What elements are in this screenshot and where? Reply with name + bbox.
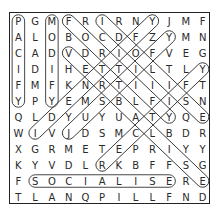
grid-cell[interactable]: P [10,13,27,29]
grid-cell[interactable]: R [44,141,61,157]
grid-cell[interactable]: O [44,173,61,189]
grid-cell[interactable]: O [127,45,144,61]
grid-cell[interactable]: D [194,189,211,205]
grid-cell[interactable]: N [77,77,94,93]
grid-cell[interactable]: A [127,109,144,125]
grid-cell[interactable]: I [111,189,128,205]
grid-cell[interactable]: M [178,13,195,29]
grid-cell[interactable]: R [194,125,211,141]
grid-cell[interactable]: Y [161,29,178,45]
grid-cell[interactable]: T [161,61,178,77]
grid-cell[interactable]: Q [10,109,27,125]
grid-cell[interactable]: I [44,61,61,77]
grid-cell[interactable]: S [144,173,161,189]
grid-cell[interactable]: E [178,45,195,61]
grid-cell[interactable]: V [44,125,61,141]
grid-cell[interactable]: S [178,157,195,173]
grid-cell[interactable]: L [27,109,44,125]
grid-cell[interactable]: K [60,77,77,93]
grid-cell[interactable]: F [194,13,211,29]
grid-cell[interactable]: I [94,13,111,29]
grid-cell[interactable]: I [27,125,44,141]
grid-cell[interactable]: M [27,77,44,93]
grid-cell[interactable]: R [178,173,195,189]
grid-cell[interactable]: L [27,189,44,205]
grid-cell[interactable]: F [44,77,61,93]
grid-cell[interactable]: J [161,13,178,29]
grid-cell[interactable]: T [144,109,161,125]
grid-cell[interactable]: L [27,29,44,45]
grid-cell[interactable]: Y [27,157,44,173]
grid-cell[interactable]: I [161,141,178,157]
grid-cell[interactable]: D [77,125,94,141]
grid-cell[interactable]: D [44,45,61,61]
grid-cell[interactable]: V [60,45,77,61]
grid-cell[interactable]: P [127,141,144,157]
grid-cell[interactable]: C [10,45,27,61]
grid-cell[interactable]: R [94,45,111,61]
grid-cell[interactable]: T [94,61,111,77]
grid-cell[interactable]: Y [161,109,178,125]
grid-cell[interactable]: D [77,45,94,61]
grid-cell[interactable]: Y [94,109,111,125]
grid-cell[interactable]: T [94,141,111,157]
grid-cell[interactable]: L [178,61,195,77]
grid-cell[interactable]: F [144,93,161,109]
grid-cell[interactable]: X [10,141,27,157]
grid-cell[interactable]: K [10,157,27,173]
grid-cell[interactable]: T [194,77,211,93]
grid-cell[interactable]: B [111,93,128,109]
grid-cell[interactable]: T [10,189,27,205]
grid-cell[interactable]: Y [194,61,211,77]
grid-cell[interactable]: I [127,173,144,189]
grid-cell[interactable]: L [77,157,94,173]
grid-cell[interactable]: H [60,61,77,77]
grid-cell[interactable]: E [194,109,211,125]
grid-cell[interactable]: F [127,29,144,45]
grid-cell[interactable]: L [144,125,161,141]
grid-cell[interactable]: D [178,125,195,141]
grid-cell[interactable]: M [178,29,195,45]
grid-cell[interactable]: L [144,61,161,77]
grid-cell[interactable]: Y [144,13,161,29]
grid-cell[interactable]: N [60,189,77,205]
grid-cell[interactable]: A [94,173,111,189]
grid-cell[interactable]: W [10,125,27,141]
grid-cell[interactable]: P [27,93,44,109]
grid-cell[interactable]: C [60,173,77,189]
grid-cell[interactable]: N [194,29,211,45]
grid-cell[interactable]: E [60,93,77,109]
grid-cell[interactable]: I [10,61,27,77]
grid-cell[interactable]: C [127,125,144,141]
grid-cell[interactable]: E [111,141,128,157]
grid-cell[interactable]: Z [144,29,161,45]
grid-cell[interactable]: R [77,13,94,29]
grid-cell[interactable]: I [111,45,128,61]
grid-cell[interactable]: Y [10,93,27,109]
grid-cell[interactable]: D [27,61,44,77]
grid-cell[interactable]: M [77,93,94,109]
grid-cell[interactable]: S [27,173,44,189]
grid-cell[interactable]: G [194,45,211,61]
grid-cell[interactable]: F [144,157,161,173]
grid-cell[interactable]: T [111,77,128,93]
grid-cell[interactable]: R [94,77,111,93]
grid-cell[interactable]: Y [60,109,77,125]
grid-cell[interactable]: F [161,157,178,173]
grid-cell[interactable]: I [77,173,94,189]
grid-cell[interactable]: Q [178,109,195,125]
grid-cell[interactable]: L [144,189,161,205]
grid-cell[interactable]: M [60,141,77,157]
grid-cell[interactable]: N [127,13,144,29]
grid-cell[interactable]: A [10,29,27,45]
grid-cell[interactable]: F [60,13,77,29]
grid-cell[interactable]: I [144,77,161,93]
grid-cell[interactable]: D [60,157,77,173]
grid-cell[interactable]: C [94,29,111,45]
grid-cell[interactable]: U [111,109,128,125]
grid-cell[interactable]: P [94,189,111,205]
grid-cell[interactable]: E [161,173,178,189]
grid-cell[interactable]: S [178,93,195,109]
grid-cell[interactable]: A [27,45,44,61]
grid-cell[interactable]: R [94,157,111,173]
